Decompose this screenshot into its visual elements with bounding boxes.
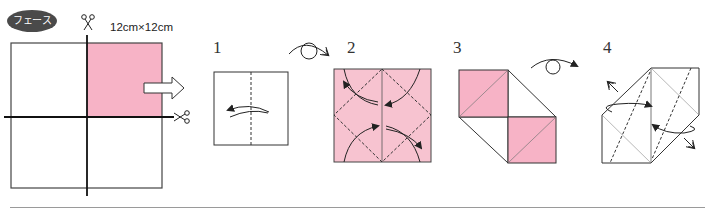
cutting-diagram bbox=[4, 35, 174, 196]
bottom-divider bbox=[10, 207, 705, 208]
pink-quadrant bbox=[87, 43, 162, 117]
scissors-icon bbox=[82, 15, 95, 30]
origami-diagram bbox=[0, 0, 705, 211]
scissors-icon bbox=[174, 111, 189, 124]
step-2-diagram bbox=[334, 69, 431, 162]
step-4-diagram bbox=[602, 68, 699, 163]
step-3-diagram bbox=[459, 70, 556, 163]
step-1-diagram bbox=[214, 72, 288, 145]
turn-over-icon bbox=[289, 43, 328, 59]
turn-over-icon bbox=[531, 59, 577, 74]
